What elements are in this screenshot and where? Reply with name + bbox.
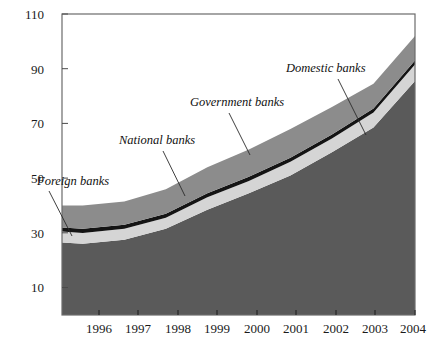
chart-figure: 110 90 70 50 30 10 1996 1997 1998 1999 2… [0,0,433,347]
annotation-national-banks: National banks [119,134,195,147]
annotation-domestic-banks: Domestic banks [286,62,366,75]
annotation-government-banks: Government banks [190,96,284,109]
annotation-foreign-banks: Foreign banks [37,175,109,188]
